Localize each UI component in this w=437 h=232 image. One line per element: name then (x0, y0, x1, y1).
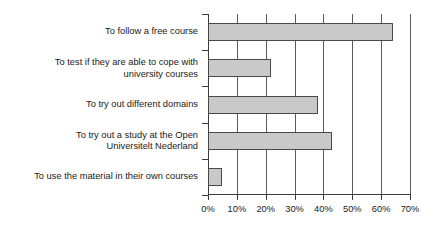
x-axis-tick (295, 195, 296, 200)
x-axis-tick (266, 195, 267, 200)
bar (208, 132, 332, 150)
category-label: To try out a study at the Open Universit… (0, 129, 198, 152)
gridline-70 (410, 14, 411, 195)
gridline-40 (323, 14, 324, 195)
x-axis-tick-label: 70% (401, 203, 420, 215)
category-label: To follow a free course (0, 26, 198, 38)
gridline-50 (352, 14, 353, 195)
x-axis-tick-label: 10% (228, 203, 247, 215)
x-axis-tick-label: 0% (201, 203, 214, 215)
plot-area (208, 14, 410, 195)
x-axis-tick-label: 40% (314, 203, 333, 215)
category-label-group: To follow a free courseTo test if they a… (0, 0, 203, 195)
x-axis-tick-label: 20% (256, 203, 275, 215)
y-axis-tick (202, 50, 208, 51)
x-axis-tick-label: 60% (372, 203, 391, 215)
y-axis-tick (202, 86, 208, 87)
bar-chart: To follow a free courseTo test if they a… (0, 0, 437, 232)
x-axis-tick-label: 50% (343, 203, 362, 215)
category-label: To try out different domains (0, 99, 198, 111)
bar (208, 23, 393, 41)
y-axis-tick (202, 159, 208, 160)
x-axis-tick (208, 195, 209, 200)
category-label: To test if they are able to cope with un… (0, 57, 198, 80)
y-axis-tick (202, 14, 208, 15)
x-axis-tick (410, 195, 411, 200)
category-label: To use the material in their own courses (0, 171, 198, 183)
y-axis-tick (202, 123, 208, 124)
bar (208, 168, 222, 186)
x-axis-tick (381, 195, 382, 200)
x-axis-tick (352, 195, 353, 200)
x-axis-tick (323, 195, 324, 200)
bar (208, 59, 271, 77)
x-axis-tick-label: 30% (285, 203, 304, 215)
x-axis-tick (237, 195, 238, 200)
bar (208, 96, 318, 114)
gridline-60 (381, 14, 382, 195)
